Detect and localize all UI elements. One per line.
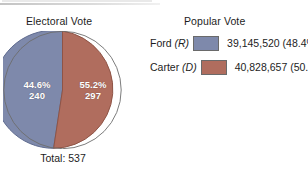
legend-value-ford: 39,145,520 (48.4%) [219,37,308,49]
pie-label-carter-value: 297 [69,90,117,101]
pie-label-ford-percent: 44.6% [13,79,61,90]
popular-vote-title: Popular Vote [184,15,245,27]
popular-vote-legend: Ford (R) 39,145,520 (48.4%) Carter (D) 4… [150,33,308,81]
electoral-vote-title: Electoral Vote [26,15,92,27]
cropped-caption-remnant [2,0,152,2]
pie-label-ford: 44.6% 240 [13,79,61,101]
legend-label-ford: Ford (R) [150,37,193,49]
legend-party-carter: (D) [182,61,197,73]
pie-total-label: Total: 537 [0,152,126,164]
legend-party-ford: (R) [175,37,190,49]
legend-swatch-ford [193,36,219,51]
pie-label-ford-value: 240 [13,90,61,101]
pie-label-carter-percent: 55.2% [69,79,117,90]
pie-label-carter: 55.2% 297 [69,79,117,101]
legend-swatch-carter [201,60,227,75]
legend-row-carter: Carter (D) 40,828,657 (50.6%) [150,57,308,77]
electoral-popular-vote-figure: Electoral Vote Popular Vote 44.6% 240 55… [0,0,308,172]
legend-candidate-name-ford: Ford [150,37,172,49]
legend-row-ford: Ford (R) 39,145,520 (48.4%) [150,33,308,53]
top-divider-rule [0,3,160,5]
legend-candidate-name-carter: Carter [150,61,179,73]
legend-value-carter: 40,828,657 (50.6%) [227,61,308,73]
legend-label-carter: Carter (D) [150,61,201,73]
